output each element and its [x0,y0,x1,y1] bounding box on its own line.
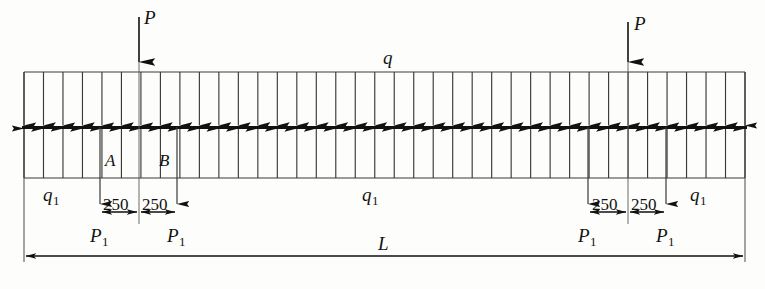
label-q1-center: q1 [362,185,378,208]
label-station-A: A [105,152,115,169]
label-station-B: B [159,152,169,169]
dimension-label-250-left-b: 250 [142,196,168,213]
distributed-load-q-top [24,72,745,127]
q1-bottom-arrow-group [24,129,745,179]
label-P1-right-a: P1 [578,226,597,249]
beam-load-diagram: P P q A B q1 q1 q1 250 250 250 250 P1 P1… [0,0,765,289]
distributed-load-q1-bottom [24,127,745,178]
label-q1-left: q1 [43,185,59,208]
label-P-right: P [634,14,646,33]
dimension-label-250-right-b: 250 [631,196,657,213]
dimension-label-250-left-a: 250 [103,196,129,213]
label-P1-left-b: P1 [167,226,186,249]
q-top-arrow-group [24,72,745,126]
label-q-top: q [383,48,393,67]
label-P1-left-a: P1 [90,226,109,249]
label-P1-right-b: P1 [656,226,675,249]
dimension-label-250-right-a: 250 [592,196,618,213]
label-q1-right: q1 [690,185,706,208]
dimension-label-L: L [378,234,389,253]
label-P-left: P [144,8,156,27]
